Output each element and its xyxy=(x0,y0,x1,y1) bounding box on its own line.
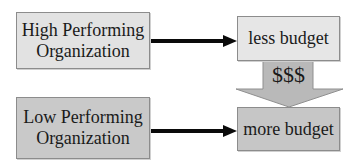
node-label-line2: Organization xyxy=(22,41,144,62)
node-label-line1: High Performing xyxy=(22,20,144,41)
node-label: more budget xyxy=(243,119,333,140)
money-label: $$$ xyxy=(263,61,314,89)
arrow-high-to-less xyxy=(150,35,237,47)
node-label-line2: Organization xyxy=(23,128,142,149)
node-label-line1: Low Performing xyxy=(23,107,142,128)
more-budget-node: more budget xyxy=(237,107,340,151)
less-budget-node: less budget xyxy=(237,16,340,61)
low-performing-organization-node: Low Performing Organization xyxy=(16,97,150,159)
arrow-low-to-more xyxy=(150,125,237,137)
node-label: less budget xyxy=(248,28,329,49)
high-performing-organization-node: High Performing Organization xyxy=(16,12,150,69)
